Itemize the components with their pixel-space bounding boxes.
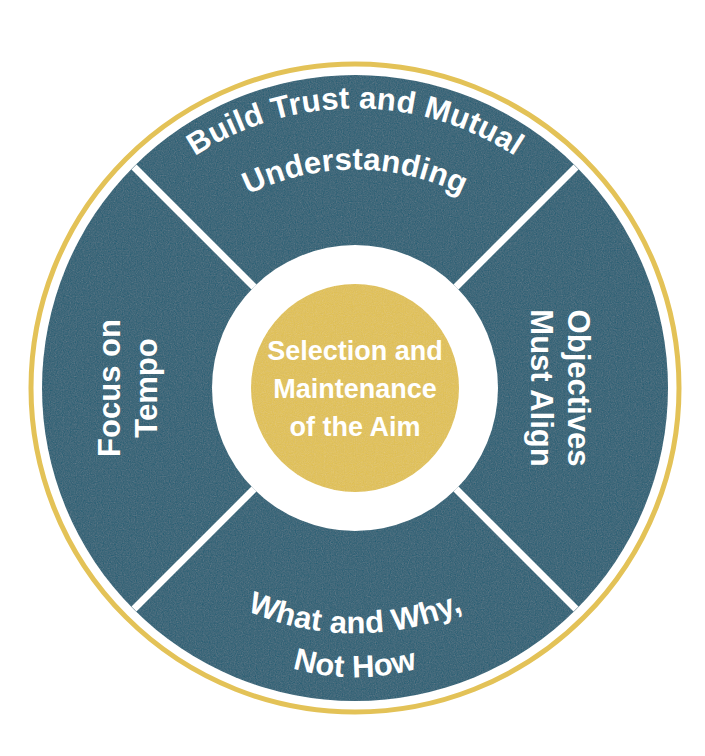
selection-and-maintenance-of-the-aim-wheel: Build Trust and Mutual Understanding Wha… [0, 0, 705, 756]
center-line1: Selection and [267, 336, 443, 366]
segment-right-line1: Objectives [561, 310, 596, 467]
center-line3: of the Aim [290, 412, 421, 442]
segment-left-line1: Focus on [92, 319, 127, 457]
center-line2: Maintenance [273, 374, 437, 404]
segment-right-line2: Must Align [524, 309, 559, 466]
diagram-container: Build Trust and Mutual Understanding Wha… [0, 0, 705, 756]
segment-left-line2: Tempo [129, 338, 164, 437]
center-aim-label: Selection and Maintenance of the Aim [267, 336, 443, 442]
